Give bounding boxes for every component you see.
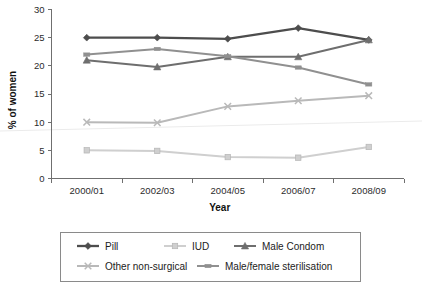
legend-item-iud[interactable]: IUD (164, 241, 209, 252)
scan-artifact-line (0, 121, 422, 131)
data-point-marker-square (296, 155, 301, 160)
data-point-marker-square (225, 154, 230, 159)
data-point-marker-dash (366, 83, 372, 86)
data-point-marker-dash (154, 47, 160, 50)
chart-container: 302520151050 2000/012002/032004/052006/0… (0, 0, 422, 286)
x-tick-label: 2006/07 (281, 185, 315, 196)
legend-label: Other non-surgical (105, 261, 187, 272)
data-point-marker-square (366, 144, 371, 149)
x-axis-title: Year (209, 202, 230, 213)
data-point-marker-dash (205, 264, 211, 267)
legend-label: Pill (105, 241, 118, 252)
y-tick-label: 5 (39, 145, 44, 156)
legend-label: IUD (192, 241, 209, 252)
series-line (87, 96, 369, 123)
series-layer (83, 25, 372, 161)
legend-border (60, 232, 360, 281)
chart-legend: PillIUDMale CondomOther non-surgicalMale… (60, 232, 360, 281)
data-point-marker-diamond (85, 243, 92, 250)
data-point-marker-square (172, 243, 177, 248)
legend-item-male-female-sterilisation[interactable]: Male/female sterilisation (197, 261, 332, 272)
y-tick-label: 10 (34, 117, 45, 128)
y-tick-label: 20 (34, 60, 45, 71)
data-point-marker-diamond (154, 34, 161, 41)
y-tick-label: 30 (34, 4, 45, 15)
data-point-marker-diamond (295, 25, 302, 32)
x-tick-label: 2008/09 (352, 185, 386, 196)
data-point-marker-dash (84, 53, 90, 56)
y-tick-label: 25 (34, 32, 45, 43)
series-other-non-surgical (83, 92, 372, 126)
x-tick-label: 2004/05 (211, 185, 245, 196)
data-point-marker-square (155, 148, 160, 153)
legend-label: Male Condom (262, 241, 324, 252)
data-point-marker-diamond (224, 35, 231, 42)
series-pill (83, 25, 372, 44)
data-point-marker-diamond (83, 34, 90, 41)
legend-item-pill[interactable]: Pill (77, 241, 118, 252)
x-axis: 2000/012002/032004/052006/072008/09 (52, 179, 405, 197)
legend-label: Male/female sterilisation (225, 261, 332, 272)
legend-item-male-condom[interactable]: Male Condom (234, 241, 324, 252)
x-tick-label: 2000/01 (70, 185, 104, 196)
y-tick-label: 15 (34, 88, 45, 99)
data-point-marker-dash (295, 66, 301, 69)
y-axis-title: % of women (7, 71, 18, 129)
contraception-line-chart: 302520151050 2000/012002/032004/052006/0… (0, 0, 422, 286)
y-axis: 302520151050 (34, 4, 52, 184)
data-point-marker-square (84, 148, 89, 153)
y-tick-label: 0 (39, 173, 44, 184)
x-tick-label: 2002/03 (140, 185, 174, 196)
legend-item-other-non-surgical[interactable]: Other non-surgical (77, 261, 187, 272)
data-point-marker-dash (225, 55, 231, 58)
series-iud (84, 144, 371, 160)
